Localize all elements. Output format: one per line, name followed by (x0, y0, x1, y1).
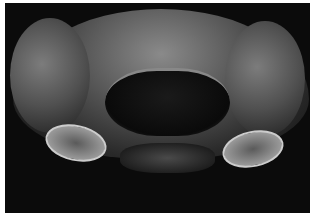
sem-photo (5, 3, 310, 213)
compound-eye-right (225, 21, 305, 136)
labium (120, 143, 215, 173)
compound-eye-left (10, 18, 90, 133)
mouthparts (105, 68, 230, 136)
